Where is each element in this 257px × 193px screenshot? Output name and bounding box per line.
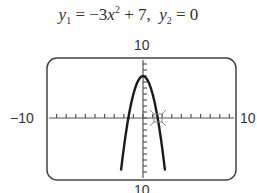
graph-screen	[0, 0, 257, 193]
